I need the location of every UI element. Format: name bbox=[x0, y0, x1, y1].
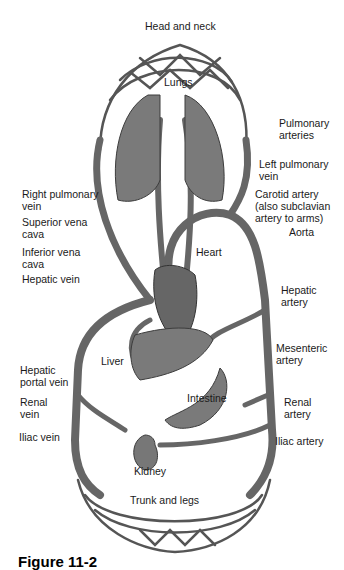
label-pulmonary-arteries: Pulmonary arteries bbox=[279, 117, 329, 141]
right-lung bbox=[115, 95, 160, 201]
trunk-capillary-bed bbox=[78, 480, 270, 552]
left-lung bbox=[185, 95, 224, 201]
liver bbox=[131, 328, 213, 380]
label-superior-vena-cava: Superior vena cava bbox=[22, 216, 87, 240]
label-trunk-legs: Trunk and legs bbox=[130, 494, 199, 506]
label-right-pulmonary-vein: Right pulmonary vein bbox=[22, 188, 98, 212]
label-left-pulmonary-vein: Left pulmonary vein bbox=[259, 158, 328, 182]
label-head-neck: Head and neck bbox=[145, 20, 216, 32]
label-aorta: Aorta bbox=[289, 226, 314, 238]
label-hepatic-portal-vein: Hepatic portal vein bbox=[20, 364, 68, 388]
label-renal-artery: Renal artery bbox=[284, 396, 311, 420]
label-renal-vein: Renal vein bbox=[20, 396, 47, 420]
label-hepatic-vein: Hepatic vein bbox=[22, 273, 80, 285]
label-mesenteric-artery: Mesenteric artery bbox=[276, 342, 327, 366]
label-inferior-vena-cava: Inferior vena cava bbox=[22, 246, 80, 270]
label-liver: Liver bbox=[101, 355, 124, 367]
figure-caption: Figure 11-2 bbox=[18, 553, 97, 570]
label-kidney: Kidney bbox=[134, 465, 166, 477]
label-iliac-vein: Iliac vein bbox=[19, 431, 60, 443]
label-heart: Heart bbox=[196, 246, 222, 258]
label-intestine: Intestine bbox=[187, 392, 227, 404]
label-hepatic-artery: Hepatic artery bbox=[281, 284, 317, 308]
mesenteric-artery bbox=[245, 395, 268, 405]
hepatic-artery bbox=[205, 310, 265, 345]
label-lungs: Lungs bbox=[164, 76, 193, 88]
label-carotid-artery: Carotid artery (also subclavian artery t… bbox=[255, 188, 330, 224]
carotid-artery bbox=[230, 140, 248, 215]
renal-vein bbox=[78, 395, 125, 430]
label-iliac-artery: Iliac artery bbox=[275, 435, 323, 447]
